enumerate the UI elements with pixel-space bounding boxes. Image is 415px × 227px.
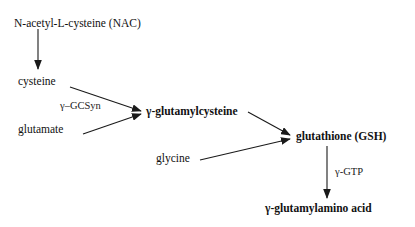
node-glutathione: glutathione (GSH) xyxy=(296,131,386,143)
enzyme-label-gcsyn: γ–GCSyn xyxy=(60,101,101,112)
arrow-gamma-glutamylcysteine-to-glutathione xyxy=(248,112,290,135)
node-gamma-glutamylcysteine: γ-glutamylcysteine xyxy=(146,106,238,118)
node-cysteine: cysteine xyxy=(18,76,56,88)
node-glycine: glycine xyxy=(156,153,190,165)
node-glutamate: glutamate xyxy=(18,124,63,136)
node-n-acetyl-l-cysteine: N-acetyl-L-cysteine (NAC) xyxy=(14,18,141,30)
arrow-glutamate-to-gamma-glutamylcysteine xyxy=(83,114,141,134)
pathway-diagram: N-acetyl-L-cysteine (NAC) cysteine γ–GCS… xyxy=(0,0,415,227)
enzyme-label-ggtp: γ-GTP xyxy=(335,167,363,178)
arrow-glycine-to-glutathione xyxy=(200,139,290,160)
node-gamma-glutamylamino-acid: γ-glutamylamino acid xyxy=(265,203,372,215)
